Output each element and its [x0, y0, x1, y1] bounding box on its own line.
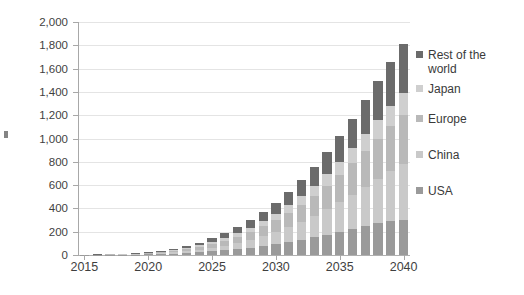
- bar-2030: [271, 203, 280, 255]
- legend-label: Japan: [428, 82, 461, 96]
- bar-segment-china: [259, 236, 268, 246]
- bar-2031: [284, 192, 293, 255]
- bar-segment-usa: [322, 235, 331, 256]
- bar-segment-europe: [297, 205, 306, 222]
- bar-segment-rest-of-the-world: [348, 119, 357, 149]
- bar-segment-usa: [348, 229, 357, 255]
- y-axis-label: 1,400: [8, 87, 68, 98]
- bar-segment-china: [297, 222, 306, 240]
- bar-segment-europe: [399, 115, 408, 164]
- bar-2032: [297, 180, 306, 255]
- y-axis-label: 1,600: [8, 64, 68, 75]
- y-axis-label: 800: [8, 157, 68, 168]
- bar-segment-rest-of-the-world: [361, 100, 370, 134]
- legend-item-europe[interactable]: Europe: [416, 112, 467, 126]
- bar-segment-rest-of-the-world: [246, 220, 255, 227]
- bar-segment-usa: [284, 242, 293, 255]
- bar-segment-china: [284, 227, 293, 242]
- bar-2035: [335, 136, 344, 255]
- bar-segment-rest-of-the-world: [335, 136, 344, 162]
- plot-area: [78, 22, 410, 255]
- bar-segment-usa: [373, 223, 382, 255]
- legend-label: Rest of the world: [428, 48, 486, 76]
- bar-segment-europe: [373, 139, 382, 179]
- bar-segment-japan: [399, 93, 408, 115]
- bar-segment-europe: [246, 232, 255, 240]
- bar-segment-rest-of-the-world: [310, 167, 319, 186]
- bar-segment-china: [373, 179, 382, 224]
- bar-segment-europe: [322, 186, 331, 210]
- bar-segment-japan: [348, 148, 357, 163]
- y-axis-label: 2,000: [8, 17, 68, 28]
- bar-segment-rest-of-the-world: [284, 192, 293, 205]
- x-axis-label: 2030: [262, 261, 290, 274]
- legend-item-japan[interactable]: Japan: [416, 82, 461, 96]
- legend-label: Europe: [428, 112, 467, 126]
- bar-segment-europe: [348, 163, 357, 194]
- bar-segment-japan: [310, 186, 319, 196]
- bars-layer: [78, 22, 410, 255]
- bar-segment-rest-of-the-world: [386, 62, 395, 106]
- bar-segment-europe: [361, 151, 370, 187]
- bar-2026: [220, 233, 229, 255]
- legend-item-china[interactable]: China: [416, 148, 459, 162]
- x-axis-label: 2040: [390, 261, 418, 274]
- bar-segment-rest-of-the-world: [373, 81, 382, 120]
- bar-segment-europe: [271, 220, 280, 232]
- legend-item-rest-of-the-world[interactable]: Rest of the world: [416, 48, 486, 76]
- bar-segment-china: [322, 209, 331, 234]
- legend-swatch-icon: [416, 85, 423, 92]
- legend-swatch-icon: [416, 51, 423, 58]
- bar-2037: [361, 100, 370, 255]
- bar-segment-rest-of-the-world: [259, 212, 268, 221]
- bar-2039: [386, 62, 395, 255]
- y-axis-label: 200: [8, 227, 68, 238]
- bar-segment-japan: [284, 205, 293, 212]
- bar-segment-usa: [361, 226, 370, 255]
- bar-segment-china: [335, 202, 344, 231]
- bar-segment-rest-of-the-world: [297, 180, 306, 196]
- bar-segment-rest-of-the-world: [271, 203, 280, 214]
- legend-swatch-icon: [416, 187, 423, 194]
- bar-2024: [195, 243, 204, 255]
- bar-2029: [259, 212, 268, 255]
- bar-segment-usa: [386, 221, 395, 255]
- bar-2036: [348, 119, 357, 255]
- legend-swatch-icon: [416, 115, 423, 122]
- bar-segment-europe: [386, 126, 395, 171]
- bar-2034: [322, 152, 331, 255]
- bar-segment-china: [310, 216, 319, 237]
- bar-segment-europe: [259, 226, 268, 236]
- bar-segment-usa: [246, 248, 255, 255]
- bar-segment-usa: [297, 240, 306, 255]
- bar-segment-usa: [259, 246, 268, 255]
- legend-label: China: [428, 148, 459, 162]
- bar-segment-china: [399, 164, 408, 220]
- bar-2023: [182, 246, 191, 255]
- bar-segment-usa: [310, 237, 319, 255]
- bar-segment-usa: [271, 244, 280, 255]
- y-axis-label: 1,800: [8, 40, 68, 51]
- bar-segment-usa: [335, 232, 344, 255]
- legend-label: USA: [428, 184, 453, 198]
- bar-segment-japan: [322, 174, 331, 186]
- bar-2025: [207, 238, 216, 255]
- bar-segment-europe: [310, 196, 319, 216]
- stacked-bar-chart: 2,0001,8001,6001,4001,2001,0008006004002…: [0, 0, 524, 295]
- bar-segment-japan: [361, 134, 370, 151]
- legend-swatch-icon: [416, 151, 423, 158]
- bar-2033: [310, 167, 319, 255]
- y-axis-label: 600: [8, 180, 68, 191]
- bar-2027: [233, 227, 242, 255]
- bar-segment-usa: [399, 220, 408, 255]
- bar-segment-china: [361, 187, 370, 226]
- x-axis-label: 2015: [70, 261, 98, 274]
- bar-segment-rest-of-the-world: [399, 44, 408, 93]
- legend-item-usa[interactable]: USA: [416, 184, 453, 198]
- bar-segment-japan: [373, 120, 382, 139]
- bar-segment-rest-of-the-world: [322, 152, 331, 174]
- bar-2038: [373, 81, 382, 255]
- bar-segment-japan: [386, 106, 395, 126]
- x-axis-label: 2020: [134, 261, 162, 274]
- x-axis: 201520202025203020352040: [78, 255, 410, 285]
